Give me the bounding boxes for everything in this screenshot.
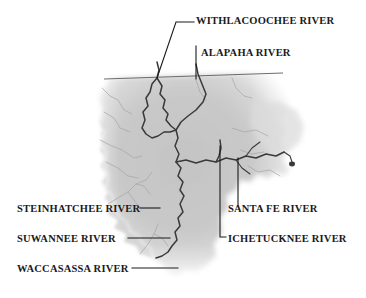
- map-graphic: [0, 0, 366, 298]
- map-label-santa-fe-river: SANTA FE RIVER: [228, 204, 318, 215]
- map-label-steinhatchee-river: STEINHATCHEE RIVER: [17, 204, 140, 215]
- santa-fe-headwater-lake-icon: [289, 162, 295, 167]
- map-label-alapaha-river: ALAPAHA RIVER: [201, 48, 291, 59]
- river-basin-map-figure: WITHLACOOCHEE RIVER ALAPAHA RIVER STEINH…: [0, 0, 366, 298]
- land-mass-group: [86, 60, 366, 298]
- leader-line-withlacoochee: [157, 22, 194, 78]
- south-fade-overlay: [120, 244, 320, 298]
- map-label-suwannee-river: SUWANNEE RIVER: [17, 234, 116, 245]
- map-label-withlacoochee-river: WITHLACOOCHEE RIVER: [196, 16, 334, 27]
- map-label-ichetucknee-river: ICHETUCKNEE RIVER: [228, 234, 347, 245]
- map-label-waccasassa-river: WACCASASSA RIVER: [17, 264, 128, 275]
